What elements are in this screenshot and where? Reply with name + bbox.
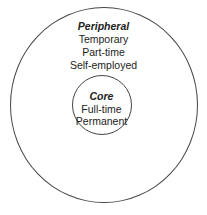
peripheral-item: Self-employed — [0, 59, 207, 71]
core-item: Full-time — [0, 103, 205, 115]
core-title: Core — [0, 90, 205, 102]
peripheral-item: Part-time — [0, 46, 207, 58]
core-item: Permanent — [0, 115, 205, 127]
peripheral-title: Peripheral — [0, 20, 207, 32]
peripheral-item: Temporary — [0, 33, 207, 45]
